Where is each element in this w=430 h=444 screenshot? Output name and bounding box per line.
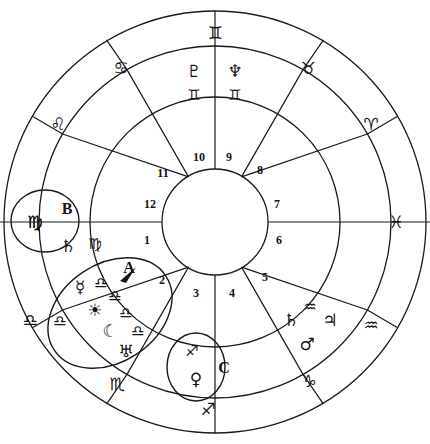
planet-moon-icon: ☾ — [102, 323, 117, 340]
planet-saturn-icon: ♄ — [60, 238, 75, 255]
zodiac-sign-pisces: ♓ — [388, 214, 403, 231]
sign-label-libra-inner: ♎ — [53, 314, 66, 329]
planet-uranus-icon: ♅ — [118, 343, 133, 360]
zodiac-sign-aries: ♈ — [363, 116, 378, 133]
planet-jupiter-icon: ♃ — [322, 312, 337, 329]
house-number-1: 1 — [144, 234, 150, 246]
planet-venus-sign-sagittarius: ♐ — [185, 344, 198, 359]
zodiac-sign-capricorn: ♑ — [301, 373, 316, 390]
house-number-12: 12 — [144, 198, 156, 210]
zodiac-sign-taurus: ♉ — [300, 60, 315, 77]
planet-neptune-sign-gemini: ♊ — [228, 88, 241, 103]
planet-pluto-sign-gemini: ♊ — [187, 88, 200, 103]
planet-mercury-icon: ☿ — [75, 279, 85, 296]
planet-neptune-icon: ♆ — [227, 63, 242, 80]
planet-jupiter-sign-aquarius: ♒ — [303, 300, 316, 315]
house-number-5: 5 — [262, 271, 268, 283]
planet-mars-icon: ♂ — [299, 336, 314, 353]
cusp-12 — [63, 134, 189, 177]
astrology-chart: ♊ ♋ ♌ ♍ ♎ ♏ ♐ ♑ ♒ ♓ ♈ ♉ 1 2 3 4 5 6 7 8 … — [0, 0, 430, 444]
house-number-11: 11 — [157, 167, 168, 179]
house-number-2: 2 — [159, 274, 165, 286]
planet-sun-icon: ☀ — [87, 302, 102, 319]
house-number-3: 3 — [193, 287, 199, 299]
callout-marker-c: C — [218, 360, 230, 376]
house-number-6: 6 — [276, 234, 282, 246]
callout-marker-b: B — [62, 201, 73, 217]
house-number-9: 9 — [226, 151, 232, 163]
highlight-circle-a — [27, 235, 193, 391]
planet-saturn-sign-virgo: ♍ — [88, 237, 101, 252]
planet-sun-sign-libra: ♎ — [108, 289, 121, 304]
planet-venus-icon: ♀ — [190, 371, 202, 388]
house-inner-circle — [162, 169, 268, 275]
cusp-9 — [242, 70, 304, 177]
zodiac-sign-leo: ♌ — [50, 116, 65, 133]
planet-uranus-sign-libra: ♎ — [131, 324, 144, 339]
house-number-4: 4 — [229, 287, 235, 299]
zodiac-sign-aquarius: ♒ — [363, 317, 378, 334]
cusp-11 — [127, 70, 189, 177]
planet-mercury-sign-libra: ♎ — [94, 276, 107, 291]
chart-canvas — [0, 0, 430, 444]
zodiac-sign-gemini: ♊ — [207, 25, 222, 42]
zodiac-sign-cancer: ♋ — [113, 60, 128, 77]
callout-marker-a: A — [123, 260, 135, 276]
house-number-10: 10 — [193, 151, 205, 163]
zodiac-sign-sagittarius: ♐ — [200, 401, 215, 418]
house-number-7: 7 — [274, 198, 280, 210]
planet-moon-sign-libra: ♎ — [119, 306, 132, 321]
house-number-8: 8 — [257, 164, 263, 176]
house-cusp-lines — [39, 46, 391, 398]
sign-label-virgo-highlight: ♍ — [27, 214, 42, 231]
planet-saturn-capricorn-icon: ♄ — [283, 312, 298, 329]
planet-pluto-icon: ♇ — [186, 63, 201, 80]
zodiac-sign-scorpio: ♏ — [109, 376, 124, 393]
zodiac-sign-libra: ♎ — [22, 312, 37, 329]
